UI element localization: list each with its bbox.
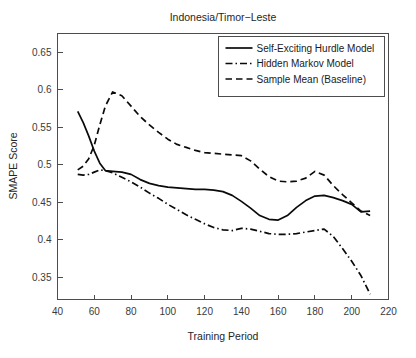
y-tick-label: 0.65 xyxy=(32,47,52,58)
x-tick-label: 160 xyxy=(270,306,287,317)
chart-canvas: Indonesia/Timor−Leste 0.350.40.450.50.55… xyxy=(0,0,416,358)
legend-label[interactable]: Hidden Markov Model xyxy=(257,58,354,69)
series-line-dashed xyxy=(78,92,370,216)
y-tick-label: 0.35 xyxy=(32,272,52,283)
y-tick-label: 0.4 xyxy=(38,234,52,245)
x-tick-label: 40 xyxy=(52,306,64,317)
y-tick-label: 0.5 xyxy=(38,159,52,170)
x-tick-label: 140 xyxy=(233,306,250,317)
legend-label[interactable]: Self-Exciting Hurdle Model xyxy=(257,43,375,54)
y-tick-label: 0.45 xyxy=(32,197,52,208)
x-tick-label: 200 xyxy=(343,306,360,317)
y-tick-label: 0.6 xyxy=(38,84,52,95)
x-tick-label: 100 xyxy=(159,306,176,317)
y-tick-label: 0.55 xyxy=(32,122,52,133)
x-tick-label: 120 xyxy=(196,306,213,317)
chart-title: Indonesia/Timor−Leste xyxy=(170,11,277,23)
chart-figure: Indonesia/Timor−Leste 0.350.40.450.50.55… xyxy=(0,0,416,358)
chart-legend[interactable]: Self-Exciting Hurdle ModelHidden Markov … xyxy=(219,37,385,97)
legend-label[interactable]: Sample Mean (Baseline) xyxy=(257,74,367,85)
x-tick-label: 80 xyxy=(125,306,137,317)
x-axis-ticks: 406080100120140160180200220 xyxy=(52,295,397,317)
x-tick-label: 60 xyxy=(89,306,101,317)
x-axis-label: Training Period xyxy=(188,330,259,342)
series-line-dashdot xyxy=(78,170,370,294)
x-tick-label: 180 xyxy=(307,306,324,317)
series-line-solid xyxy=(78,111,370,220)
data-series-group xyxy=(78,92,370,294)
y-axis-label: SMAPE Score xyxy=(7,132,19,199)
x-tick-label: 220 xyxy=(380,306,397,317)
